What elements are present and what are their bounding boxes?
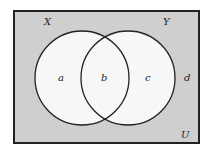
venn-diagram: X Y a b c d U	[0, 0, 212, 151]
region-a-label: a	[58, 72, 64, 83]
universe-label: U	[181, 129, 190, 140]
region-d-label: d	[184, 72, 190, 83]
region-c-label: c	[145, 72, 151, 83]
set-x-label: X	[43, 16, 52, 27]
region-b-label: b	[101, 72, 107, 83]
